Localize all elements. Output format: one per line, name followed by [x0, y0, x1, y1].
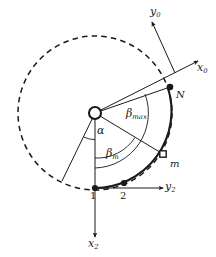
point-marker-m — [160, 151, 166, 157]
axis-label-y2: y2 — [165, 181, 176, 194]
angle-label-beta-max: βmax — [126, 108, 147, 121]
point-label-2: 2 — [120, 191, 126, 201]
axis-label-x2: x2 — [88, 238, 99, 251]
solid-active-arc — [95, 88, 172, 188]
angle-label-beta-m: βm — [106, 148, 119, 161]
point-label-m: m — [170, 159, 179, 169]
kinematic-diagram-figure: y0 x0 y2 x2 α βm βmax 1 2 m N — [0, 0, 216, 257]
axis-label-x0: x0 — [197, 62, 208, 75]
diagram-canvas — [0, 0, 216, 257]
point-marker-N — [167, 84, 174, 91]
angle-label-alpha: α — [97, 125, 104, 136]
point-marker-hub — [89, 107, 101, 119]
point-label-N: N — [176, 90, 185, 100]
angle-arc-alpha — [84, 137, 95, 140]
axis-label-y0: y0 — [150, 6, 161, 19]
point-marker-2 — [121, 180, 127, 186]
axis-line-x0 — [95, 61, 198, 113]
point-label-1: 1 — [90, 191, 96, 201]
radius-line-alpha-offset — [62, 113, 95, 181]
